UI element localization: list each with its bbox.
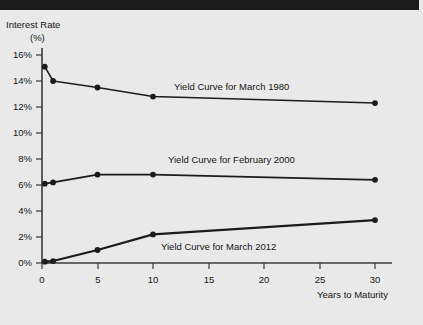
x-tick-label-15: 15	[204, 274, 215, 285]
data-point	[50, 258, 56, 264]
x-tick-label-5: 5	[95, 274, 100, 285]
x-axis-title: Years to Maturity	[317, 289, 388, 300]
y-tick-label-14: 14%	[13, 75, 33, 86]
data-point	[372, 177, 378, 183]
x-tick-label-10: 10	[148, 274, 159, 285]
series-line	[45, 175, 375, 184]
y-tick-label-0: 0%	[18, 257, 32, 268]
y-tick-label-12: 12%	[13, 101, 33, 112]
yield-curve-chart: Interest Rate (%) 0% 2% 4% 6% 8% 10% 12%…	[0, 0, 423, 325]
series-label-march-1980: Yield Curve for March 1980	[174, 81, 289, 92]
data-point	[42, 259, 48, 265]
y-tick-label-6: 6%	[18, 179, 32, 190]
chart-figure: Interest Rate (%) 0% 2% 4% 6% 8% 10% 12%…	[0, 0, 423, 325]
x-tick-label-25: 25	[315, 274, 326, 285]
y-tick-label-4: 4%	[18, 205, 32, 216]
series-february-2000	[42, 172, 378, 187]
data-point	[372, 100, 378, 106]
data-point	[150, 94, 156, 100]
data-point	[50, 78, 56, 84]
data-point	[50, 180, 56, 186]
series-label-march-2012: Yield Curve for March 2012	[161, 241, 276, 252]
data-point	[95, 247, 101, 253]
data-point	[42, 64, 48, 70]
data-point	[372, 217, 378, 223]
y-axis-title-line2: (%)	[30, 32, 45, 43]
data-point	[150, 232, 156, 238]
x-tick-label-0: 0	[39, 274, 44, 285]
x-tick-label-20: 20	[259, 274, 270, 285]
data-point	[95, 85, 101, 91]
y-tick-label-2: 2%	[18, 231, 32, 242]
data-point	[42, 181, 48, 187]
data-point	[95, 172, 101, 178]
data-point	[150, 172, 156, 178]
series-label-february-2000: Yield Curve for February 2000	[168, 154, 295, 165]
y-tick-label-8: 8%	[18, 153, 32, 164]
x-tick-label-30: 30	[370, 274, 381, 285]
y-tick-label-16: 16%	[13, 49, 33, 60]
y-tick-label-10: 10%	[13, 127, 33, 138]
y-axis-title-line1: Interest Rate	[6, 19, 60, 30]
